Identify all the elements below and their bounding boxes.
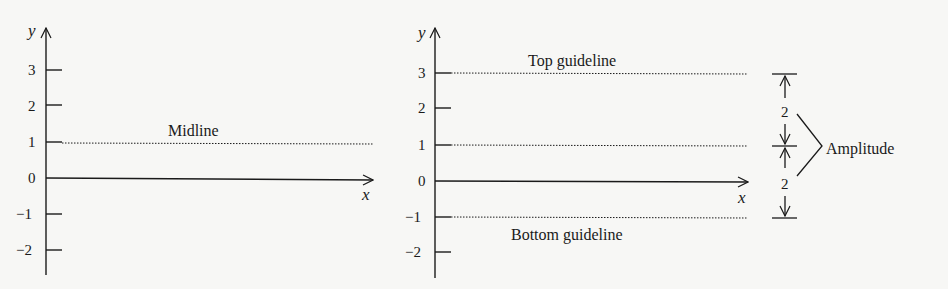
right-tick-2: 2 [418, 100, 426, 116]
bottom-guideline [451, 217, 748, 218]
left-tick-0: 0 [28, 170, 36, 186]
top-guideline-label: Top guideline [528, 52, 616, 70]
left-tick-2: 2 [28, 98, 36, 114]
left-tick-neg1: −1 [16, 206, 32, 222]
bottom-guideline-label: Bottom guideline [511, 226, 623, 244]
right-chart: y x 3 2 1 0 −1 −2 Top guideline Bottom g… [405, 23, 894, 278]
left-y-axis-label: y [26, 21, 36, 40]
right-midline [451, 145, 748, 146]
left-midline [62, 143, 373, 144]
midline-label: Midline [168, 122, 219, 139]
right-tick-neg2: −2 [405, 244, 421, 260]
amplitude-label: Amplitude [826, 140, 894, 158]
diagram-canvas: y x 3 2 1 0 −1 −2 Midline y x 3 2 [0, 0, 948, 289]
left-tick-1: 1 [28, 134, 36, 150]
left-tick-neg2: −2 [16, 242, 32, 258]
right-tick-3: 3 [418, 65, 426, 81]
left-tick-3: 3 [28, 62, 36, 78]
right-tick-neg1: −1 [405, 209, 421, 225]
right-y-axis-label: y [416, 23, 426, 42]
right-x-axis-label: x [737, 188, 746, 207]
top-guideline [451, 73, 748, 74]
right-y-ticks [435, 73, 451, 252]
left-x-axis-label: x [361, 185, 370, 204]
left-x-axis [46, 178, 373, 180]
left-chart: y x 3 2 1 0 −1 −2 Midline [16, 21, 373, 275]
lower-distance-label: 2 [781, 176, 789, 192]
upper-distance-label: 2 [781, 104, 789, 120]
right-tick-1: 1 [418, 137, 426, 153]
left-y-ticks [46, 70, 62, 250]
right-tick-0: 0 [418, 173, 426, 189]
amplitude-dimension-markers [772, 74, 822, 218]
right-x-axis [435, 181, 748, 182]
